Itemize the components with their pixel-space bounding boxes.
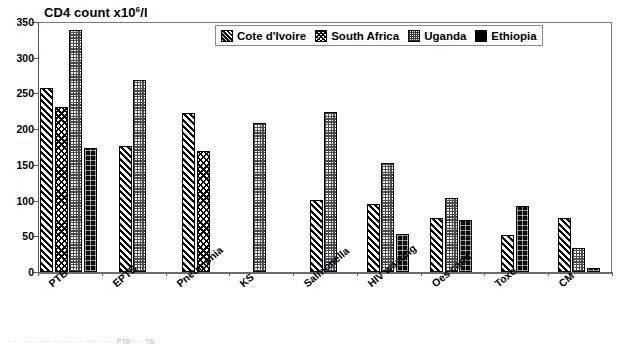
y-axis-tick-label: 350 (0, 17, 34, 27)
y-axis-tick-label-wrap: 100 (0, 196, 34, 206)
bar-cote-d-ivoire-eptb (119, 146, 132, 272)
chart-title-main: CD4 count x10 (44, 5, 136, 20)
x-axis-tick (38, 272, 39, 276)
y-axis-tick-label-wrap: 0 (0, 267, 34, 277)
legend-label: Ethiopia (491, 30, 536, 42)
legend-item-sa: South Africa (315, 30, 399, 42)
y-axis-tick-label: 250 (0, 88, 34, 98)
legend-item-et: Ethiopia (475, 30, 536, 42)
y-axis-tick-label-wrap: 200 (0, 124, 34, 134)
x-axis-tick (484, 272, 485, 276)
y-axis-tick-label: 150 (0, 160, 34, 170)
y-axis-tick-label: 100 (0, 196, 34, 206)
y-axis-tick-label-wrap: 350 (0, 17, 34, 27)
legend-item-ug: Uganda (408, 30, 466, 42)
solid-black-swatch (475, 30, 487, 42)
diagonal-hatch-swatch (221, 30, 233, 42)
bar-cote-d-ivoire-cm (558, 218, 571, 272)
chart-legend: Cote d'IvoireSouth AfricaUgandaEthiopia (215, 25, 543, 46)
bar-cote-d-ivoire-hiv-wasting (367, 204, 380, 272)
bar-south-africa-ptb (55, 107, 68, 272)
crosshatch-swatch (315, 30, 327, 42)
y-axis-tick-label-wrap: 150 (0, 160, 34, 170)
x-axis-tick (166, 272, 167, 276)
plot-area (38, 22, 612, 272)
x-axis-tick (357, 272, 358, 276)
x-axis-tick (102, 272, 103, 276)
chart-title-tail: /l (140, 5, 147, 20)
bar-uganda-ks (253, 123, 266, 272)
y-axis-tick-label-wrap: 300 (0, 53, 34, 63)
y-axis-tick-label: 200 (0, 124, 34, 134)
bar-cote-d-ivoire-salmonella (310, 200, 323, 272)
bar-cote-d-ivoire-oes-cand (430, 218, 443, 272)
legend-label: Uganda (424, 30, 466, 42)
x-axis-tick (293, 272, 294, 276)
bar-uganda-ptb (69, 30, 82, 272)
chart-title: CD4 count x106/l (44, 5, 148, 20)
y-axis-tick-label: 0 (0, 267, 34, 277)
bar-uganda-cm (572, 248, 585, 272)
y-axis-tick-label-wrap: 50 (0, 231, 34, 241)
bar-uganda-eptb (133, 80, 146, 272)
x-axis-tick (421, 272, 422, 276)
legend-label: South Africa (331, 30, 399, 42)
bar-ethiopia-ptb (84, 148, 97, 272)
x-axis-tick (612, 272, 613, 276)
bar-cote-d-ivoire-pneumonia (182, 113, 195, 272)
x-axis-tick (548, 272, 549, 276)
legend-item-ci: Cote d'Ivoire (221, 30, 306, 42)
bar-ethiopia-cm (587, 268, 600, 272)
y-axis-tick-label: 300 (0, 53, 34, 63)
checker-swatch (408, 30, 420, 42)
y-axis-tick-label-wrap: 250 (0, 88, 34, 98)
bar-ethiopia-toxo (516, 206, 529, 272)
legend-label: Cote d'Ivoire (237, 30, 306, 42)
bar-cote-d-ivoire-ptb (40, 88, 53, 272)
chart-figure: CD4 count x106/l 050100150200250300350 P… (0, 0, 622, 349)
figure-caption: · ··· ·· ···· · ··· ·· ··· ···· ·· ···· … (8, 338, 614, 349)
x-axis-tick (229, 272, 230, 276)
bar-uganda-salmonella (324, 112, 337, 272)
y-axis-tick-label: 50 (0, 231, 34, 241)
